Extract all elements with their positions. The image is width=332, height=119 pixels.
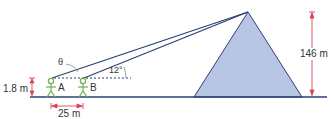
angle-arc-b bbox=[124, 67, 126, 78]
person-b bbox=[78, 78, 88, 97]
label-height-pyramid: 146 m bbox=[300, 48, 328, 60]
diagram-canvas bbox=[0, 0, 332, 119]
label-distance-ab: 25 m bbox=[58, 109, 80, 119]
label-angle-b: 12° bbox=[109, 66, 123, 75]
label-angle-theta: θ bbox=[58, 58, 63, 67]
label-point-b: B bbox=[90, 83, 97, 93]
label-height-person: 1.8 m bbox=[3, 84, 28, 94]
person-a bbox=[46, 78, 56, 97]
label-point-a: A bbox=[58, 83, 65, 93]
height-person-arrow bbox=[29, 78, 35, 96]
